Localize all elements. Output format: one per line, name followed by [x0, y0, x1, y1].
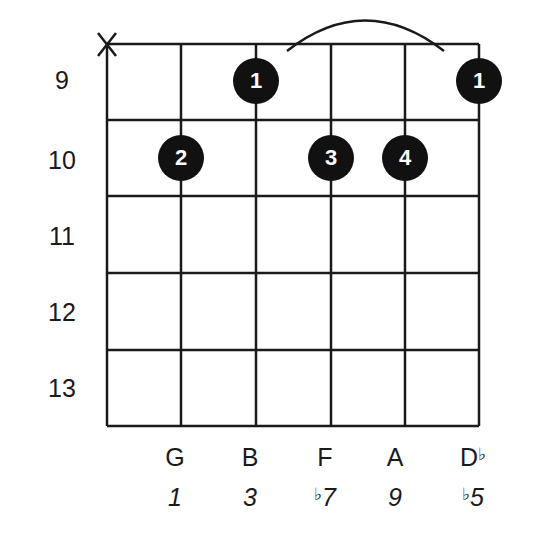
degree-label: ♭7 [300, 480, 350, 512]
finger-dot-string4-fret10: 3 [308, 135, 354, 181]
finger-dot-string5-fret10: 4 [382, 135, 428, 181]
note-label: G [150, 440, 200, 472]
note-label: D♭ [448, 440, 498, 472]
fret-number-9: 9 [40, 65, 84, 95]
degree-label: 3 [225, 480, 275, 512]
degree-label: ♭5 [448, 480, 498, 512]
barre-arc [287, 21, 444, 52]
fret-number-10: 10 [40, 145, 84, 175]
finger-dot-string6-fret9: 1 [456, 58, 502, 104]
degree-label: 9 [370, 480, 420, 512]
finger-dot-string3-fret9: 1 [233, 58, 279, 104]
fret-number-11: 11 [40, 221, 84, 251]
note-label: B [225, 440, 275, 472]
note-label: F [300, 440, 350, 472]
degree-label: 1 [150, 480, 200, 512]
fret-number-13: 13 [40, 373, 84, 403]
note-label: A [370, 440, 420, 472]
fret-number-12: 12 [40, 297, 84, 327]
finger-dot-string2-fret10: 2 [158, 135, 204, 181]
